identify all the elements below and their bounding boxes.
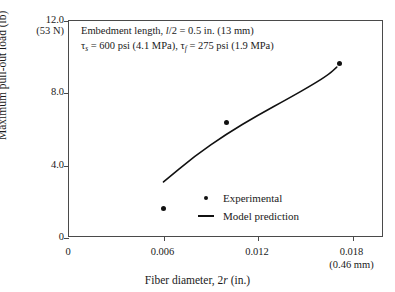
- legend-item-model-prediction: Model prediction: [189, 207, 299, 225]
- marker-dot-icon: [189, 196, 223, 200]
- legend: Experimental Model prediction: [189, 189, 299, 225]
- y-tick-label: 12.0: [46, 14, 64, 25]
- x-tick-sublabel: (0.46 mm): [329, 259, 373, 271]
- x-axis-label-pre: Fiber diameter, 2: [145, 274, 223, 286]
- x-tick-label: 0.012: [245, 246, 269, 258]
- legend-item-experimental: Experimental: [189, 189, 299, 207]
- plot-area: Embedment length, l/2 = 0.5 in. (13 mm) …: [68, 20, 383, 237]
- x-axis-label: Fiber diameter, 2r (in.): [0, 274, 395, 286]
- y-tick-sublabel: (53 N): [36, 25, 64, 36]
- x-axis-label-post: (in.): [228, 274, 250, 286]
- x-tick-label: 0.018: [340, 246, 364, 258]
- y-tick-label: 4.0: [51, 159, 64, 170]
- y-axis-label: Maximum pull-out load (lb): [0, 11, 8, 140]
- y-tick-mark: [64, 238, 69, 239]
- y-tick-label: 8.0: [51, 86, 64, 97]
- data-point: [224, 120, 229, 125]
- line-segment-icon: [189, 215, 223, 216]
- data-point: [161, 206, 166, 211]
- legend-label-experimental: Experimental: [223, 189, 282, 207]
- pull-out-load-chart: Maximum pull-out load (lb) Fiber diamete…: [0, 0, 395, 292]
- x-tick-label: 0.006: [151, 246, 175, 258]
- y-tick-label: 0: [59, 231, 64, 242]
- legend-label-model-prediction: Model prediction: [223, 207, 299, 225]
- x-tick-label: 0: [65, 246, 70, 258]
